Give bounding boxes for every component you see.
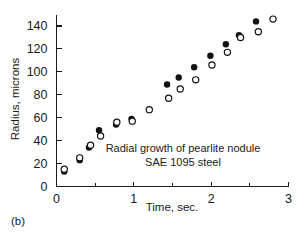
x-axis-title: Time, sec. <box>146 201 199 213</box>
data-point-filled <box>175 74 181 80</box>
data-point-open <box>166 95 172 101</box>
data-point-filled <box>223 41 229 47</box>
data-point-open <box>270 16 276 22</box>
data-point-open <box>97 133 103 139</box>
plot-annotation-line-2: SAE 1095 steel <box>145 156 221 168</box>
data-point-open <box>224 49 230 55</box>
y-axis-tick-label: 120 <box>27 42 48 56</box>
plot-annotation-line-1: Radial growth of pearlite nodule <box>106 142 261 154</box>
data-point-open <box>177 86 183 92</box>
data-point-open <box>61 166 67 172</box>
panel-label: (b) <box>11 215 25 227</box>
figure-panel: 020406080100120140 0123 Radius, microns … <box>0 0 306 233</box>
data-point-open <box>87 142 93 148</box>
data-point-open <box>114 119 120 125</box>
data-point-open <box>209 62 215 68</box>
y-axis-title: Radius, microns <box>9 58 21 141</box>
data-point-filled <box>191 64 197 70</box>
y-axis-tick-label: 60 <box>34 111 48 125</box>
data-point-filled <box>164 81 170 87</box>
y-axis-tick-label: 0 <box>41 180 48 194</box>
x-axis-tick-label: 2 <box>208 192 215 206</box>
y-axis-tick-label: 40 <box>34 134 48 148</box>
data-point-open <box>129 118 135 124</box>
data-point-open <box>77 155 83 161</box>
y-axis-tick-label: 20 <box>34 157 48 171</box>
x-axis-tick-label: 0 <box>53 192 60 206</box>
data-point-open <box>237 34 243 40</box>
data-point-open <box>146 107 152 113</box>
data-point-filled <box>253 18 259 24</box>
y-axis-tick-labels: 020406080100120140 <box>27 19 48 194</box>
x-axis-tick-label: 3 <box>285 192 292 206</box>
y-axis-tick-label: 80 <box>34 88 48 102</box>
data-point-filled <box>207 53 213 59</box>
y-axis-tick-label: 100 <box>27 65 48 79</box>
x-axis-tick-label: 1 <box>130 192 137 206</box>
data-point-open <box>193 77 199 83</box>
y-axis-tick-label: 140 <box>27 19 48 33</box>
scatter-plot: 020406080100120140 0123 Radius, microns … <box>0 0 306 233</box>
data-point-open <box>255 29 261 35</box>
